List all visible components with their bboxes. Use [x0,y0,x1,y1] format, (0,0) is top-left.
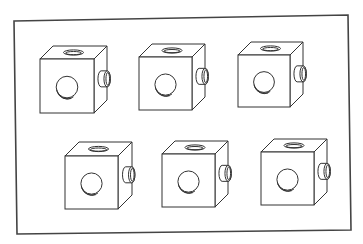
cube-2 [139,44,208,110]
cube-4 [65,142,135,209]
cube-1 [40,46,110,113]
figure-canvas [0,0,363,244]
cube-5 [162,141,231,207]
cube-6 [261,139,330,205]
cube-3 [238,42,306,107]
cube-figure [0,0,363,244]
